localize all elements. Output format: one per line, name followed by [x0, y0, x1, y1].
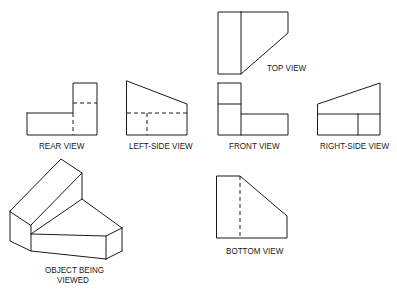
isometric-object-drawing: [10, 159, 122, 259]
left-side-view-drawing: [127, 81, 187, 135]
bottom-view-label: BOTTOM VIEW: [226, 246, 283, 256]
rear-view-drawing: [27, 83, 97, 135]
front-view-label: FRONT VIEW: [229, 141, 280, 151]
right-side-view-drawing: [318, 83, 380, 135]
object-label-line2: VIEWED: [57, 275, 89, 285]
front-view-drawing: [218, 83, 288, 135]
rear-view-label: REAR VIEW: [39, 141, 84, 151]
bottom-view-drawing: [217, 176, 287, 238]
top-view-label: TOP VIEW: [267, 63, 306, 73]
left-side-view-label: LEFT-SIDE VIEW: [129, 141, 193, 151]
right-side-view-label: RIGHT-SIDE VIEW: [320, 141, 389, 151]
